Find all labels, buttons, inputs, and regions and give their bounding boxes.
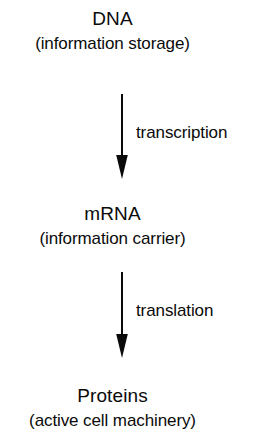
stage-proteins-subtitle: (active cell machinery) [0, 412, 225, 429]
stage-mrna: mRNA (information carrier) [0, 204, 225, 247]
stage-proteins-title: Proteins [0, 386, 225, 405]
down-arrow-icon [108, 92, 136, 182]
stage-dna-subtitle: (information storage) [0, 35, 225, 52]
stage-dna-title: DNA [0, 9, 225, 28]
stage-mrna-title: mRNA [0, 204, 225, 223]
stage-dna: DNA (information storage) [0, 9, 225, 52]
down-arrow-icon [108, 270, 136, 360]
arrow-label-translation: translation [136, 302, 213, 319]
arrow-label-transcription: transcription [136, 124, 227, 141]
central-dogma-diagram: DNA (information storage) transcription … [0, 0, 271, 446]
stage-mrna-subtitle: (information carrier) [0, 230, 225, 247]
stage-proteins: Proteins (active cell machinery) [0, 386, 225, 429]
